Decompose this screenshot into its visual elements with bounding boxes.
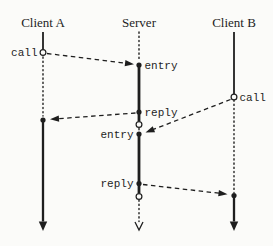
reply-receive-client-b-dot-icon xyxy=(231,193,236,198)
entry-point-2-label: entry xyxy=(100,129,133,141)
reply-point-2-label: reply xyxy=(100,178,133,190)
actor-label-server: Server xyxy=(122,15,157,30)
sequence-diagram-canvas: Client AServerClient Bcallentryreplyentr… xyxy=(0,0,273,246)
reply-point-1-dot-icon xyxy=(136,109,141,114)
call-point-client-b-circle-icon xyxy=(231,94,237,100)
actor-label-client-b: Client B xyxy=(212,15,256,30)
call-point-client-a-label: call xyxy=(11,47,37,59)
actor-label-client-a: Client A xyxy=(21,15,65,30)
entry-point-2-dot-icon xyxy=(136,131,141,136)
call-point-client-b-label: call xyxy=(240,92,266,104)
call-point-client-a-circle-icon xyxy=(40,50,46,56)
reply-point-2-dot-icon xyxy=(136,181,141,186)
reply-point-1-label: reply xyxy=(145,107,178,119)
entry-point-1-dot-icon xyxy=(136,62,141,67)
return-point-1-circle-icon xyxy=(136,122,142,128)
entry-point-1-label: entry xyxy=(145,60,178,72)
sequence-diagram-figure: Client AServerClient Bcallentryreplyentr… xyxy=(0,0,273,246)
reply-receive-client-a-dot-icon xyxy=(40,117,45,122)
return-point-2-circle-icon xyxy=(136,194,142,200)
